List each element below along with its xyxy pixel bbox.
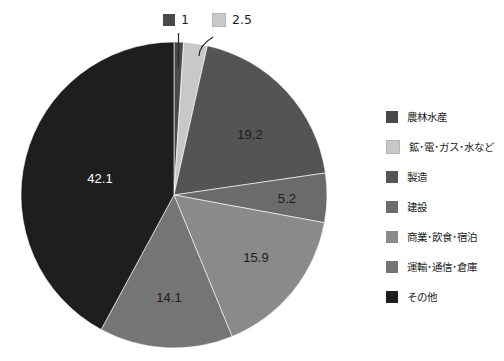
legend-item-5[interactable]: 運輸･通信･倉庫 (386, 252, 504, 282)
legend-swatch-5 (386, 261, 398, 273)
legend-item-1[interactable]: 鉱･電･ガス･水など (386, 132, 504, 162)
legend-item-0[interactable]: 農林水産 (386, 102, 504, 132)
legend-label-2: 製造 (407, 162, 427, 192)
slice-value-label-0: 19.2 (237, 127, 263, 142)
legend-label-6: その他 (407, 282, 437, 312)
callout-label-agriculture: 1 (181, 12, 189, 27)
slice-value-label-2: 15.9 (243, 250, 269, 265)
legend-label-0: 農林水産 (407, 102, 447, 132)
legend-swatch-3 (386, 201, 398, 213)
legend-label-3: 建設 (407, 192, 427, 222)
callout-swatch-agriculture (163, 14, 175, 26)
legend-label-1: 鉱･電･ガス･水など (409, 132, 494, 162)
legend-label-5: 運輸･通信･倉庫 (407, 252, 477, 282)
legend-swatch-1 (386, 140, 400, 154)
callout-label-mining: 2.5 (232, 12, 252, 27)
legend-item-3[interactable]: 建設 (386, 192, 504, 222)
callout-swatch-mining (212, 13, 226, 27)
legend-label-4: 商業･飲食･宿泊 (407, 222, 477, 252)
legend-swatch-2 (386, 171, 398, 183)
pie-chart-figure: 19.25.215.914.142.1 1 2.5 農林水産鉱･電･ガス･水など… (0, 0, 504, 361)
legend-item-4[interactable]: 商業･飲食･宿泊 (386, 222, 504, 252)
callout-mining: 2.5 (212, 12, 252, 27)
legend-item-2[interactable]: 製造 (386, 162, 504, 192)
legend-swatch-4 (386, 231, 398, 243)
legend-swatch-6 (386, 291, 398, 303)
legend-item-6[interactable]: その他 (386, 282, 504, 312)
callout-agriculture: 1 (163, 12, 189, 27)
slice-value-label-3: 14.1 (156, 290, 182, 305)
slice-value-label-1: 5.2 (278, 191, 296, 206)
slice-value-label-4: 42.1 (87, 171, 113, 186)
chart-legend: 農林水産鉱･電･ガス･水など製造建設商業･飲食･宿泊運輸･通信･倉庫その他 (386, 102, 504, 312)
legend-swatch-0 (386, 111, 398, 123)
